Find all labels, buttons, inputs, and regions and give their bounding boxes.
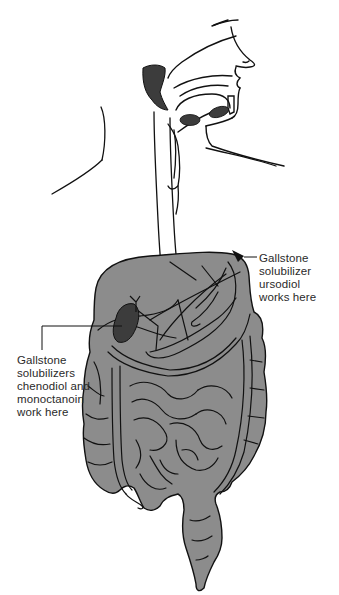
head-outline (168, 20, 284, 166)
chenodiol-monoctanoin-callout-label: Gallstone solubilizers chenodiol and mon… (17, 354, 90, 419)
shoulder-outline (52, 107, 276, 194)
tongue-dark-region (208, 104, 230, 120)
digestive-organ-mass (83, 252, 267, 590)
tonsil (180, 115, 200, 126)
esophagus (154, 112, 180, 276)
ursodiol-callout-label: Gallstone solubilizer ursodiol works her… (259, 252, 316, 304)
adenoid-tissue (143, 65, 168, 110)
